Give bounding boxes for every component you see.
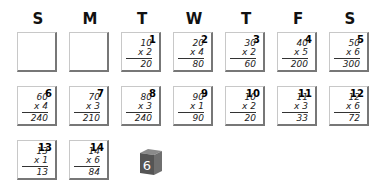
multiplier: x 6 bbox=[334, 102, 360, 111]
calendar-day-card[interactable]: 220x 480 bbox=[173, 32, 213, 72]
calendar-day-card[interactable] bbox=[17, 32, 57, 72]
multiplier: x 4 bbox=[22, 102, 48, 111]
product: 210 bbox=[74, 112, 100, 123]
die-icon: 6 bbox=[136, 147, 164, 177]
calendar-day-card[interactable]: 330x 260 bbox=[225, 32, 265, 72]
product: 84 bbox=[74, 166, 100, 177]
multiplication-problem: 50x 6300 bbox=[334, 39, 360, 69]
product: 20 bbox=[230, 112, 256, 123]
calendar-day-card[interactable]: 1010x 220 bbox=[225, 86, 265, 126]
product: 20 bbox=[126, 58, 152, 69]
calendar-day-card[interactable]: 1414x 684 bbox=[69, 140, 109, 180]
multiplier: x 2 bbox=[126, 48, 152, 57]
product: 33 bbox=[282, 112, 308, 123]
product: 13 bbox=[22, 166, 48, 177]
calendar-day-card[interactable]: 660x 4240 bbox=[17, 86, 57, 126]
calendar-day-card[interactable]: 770x 3210 bbox=[69, 86, 109, 126]
multiplier: x 6 bbox=[334, 48, 360, 57]
product: 80 bbox=[178, 58, 204, 69]
product: 240 bbox=[22, 112, 48, 123]
multiplier: x 3 bbox=[74, 102, 100, 111]
calendar-day-card[interactable] bbox=[69, 32, 109, 72]
product: 60 bbox=[230, 58, 256, 69]
multiplier: x 2 bbox=[230, 102, 256, 111]
weekday-header: M bbox=[69, 10, 111, 28]
multiplication-problem: 14x 684 bbox=[74, 147, 100, 177]
multiplier: x 4 bbox=[178, 48, 204, 57]
weekday-header: W bbox=[173, 10, 215, 28]
number-die[interactable]: 6 bbox=[136, 147, 164, 177]
product: 200 bbox=[282, 58, 308, 69]
calendar-day-card[interactable]: 1212x 672 bbox=[329, 86, 369, 126]
multiplication-problem: 11x 333 bbox=[282, 93, 308, 123]
product: 90 bbox=[178, 112, 204, 123]
product: 240 bbox=[126, 112, 152, 123]
calendar-day-card[interactable]: 440x 5200 bbox=[277, 32, 317, 72]
multiplication-problem: 10x 220 bbox=[126, 39, 152, 69]
multiplier: x 5 bbox=[282, 48, 308, 57]
calendar-day-card[interactable]: 990x 190 bbox=[173, 86, 213, 126]
multiplication-problem: 90x 190 bbox=[178, 93, 204, 123]
calendar-day-card[interactable]: 880x 3240 bbox=[121, 86, 161, 126]
calendar-day-card[interactable]: 1111x 333 bbox=[277, 86, 317, 126]
weekday-header: S bbox=[329, 10, 371, 28]
multiplication-problem: 30x 260 bbox=[230, 39, 256, 69]
weekday-header: T bbox=[225, 10, 267, 28]
multiplier: x 1 bbox=[178, 102, 204, 111]
svg-text:6: 6 bbox=[143, 158, 151, 173]
weekday-header: T bbox=[121, 10, 163, 28]
multiplier: x 2 bbox=[230, 48, 256, 57]
multiplication-problem: 13x 113 bbox=[22, 147, 48, 177]
multiplication-problem: 10x 220 bbox=[230, 93, 256, 123]
weekday-header: F bbox=[277, 10, 319, 28]
weekday-header: S bbox=[17, 10, 59, 28]
multiplication-problem: 20x 480 bbox=[178, 39, 204, 69]
multiplier: x 3 bbox=[282, 102, 308, 111]
multiplication-problem: 80x 3240 bbox=[126, 93, 152, 123]
multiplication-problem: 60x 4240 bbox=[22, 93, 48, 123]
product: 300 bbox=[334, 58, 360, 69]
multiplier: x 1 bbox=[22, 156, 48, 165]
multiplier: x 3 bbox=[126, 102, 152, 111]
multiplier: x 6 bbox=[74, 156, 100, 165]
calendar-day-card[interactable]: 550x 6300 bbox=[329, 32, 369, 72]
multiplication-problem: 40x 5200 bbox=[282, 39, 308, 69]
calendar-day-card[interactable]: 110x 220 bbox=[121, 32, 161, 72]
multiplication-problem: 12x 672 bbox=[334, 93, 360, 123]
calendar-day-card[interactable]: 1313x 113 bbox=[17, 140, 57, 180]
product: 72 bbox=[334, 112, 360, 123]
multiplication-problem: 70x 3210 bbox=[74, 93, 100, 123]
